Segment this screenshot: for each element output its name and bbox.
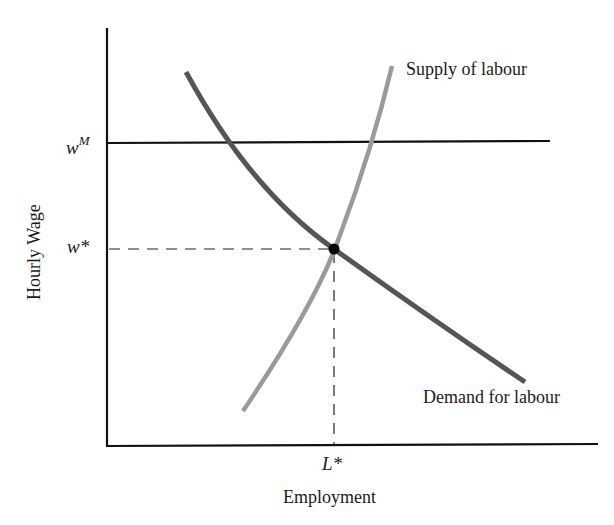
x-axis xyxy=(106,444,598,446)
lstar-tick-label: L* xyxy=(322,453,342,475)
wstar-tick-label: w* xyxy=(67,236,89,258)
x-axis-title: Employment xyxy=(283,487,376,508)
demand-curve xyxy=(186,72,525,382)
wm-base: w xyxy=(66,137,79,158)
wm-superscript: M xyxy=(79,133,90,148)
minimum-wage-line xyxy=(107,141,550,143)
y-axis-title: Hourly Wage xyxy=(24,204,45,300)
wm-tick-label: wM xyxy=(66,135,90,159)
supply-label: Supply of labour xyxy=(406,59,527,80)
demand-label: Demand for labour xyxy=(423,387,560,408)
equilibrium-point xyxy=(329,244,340,255)
